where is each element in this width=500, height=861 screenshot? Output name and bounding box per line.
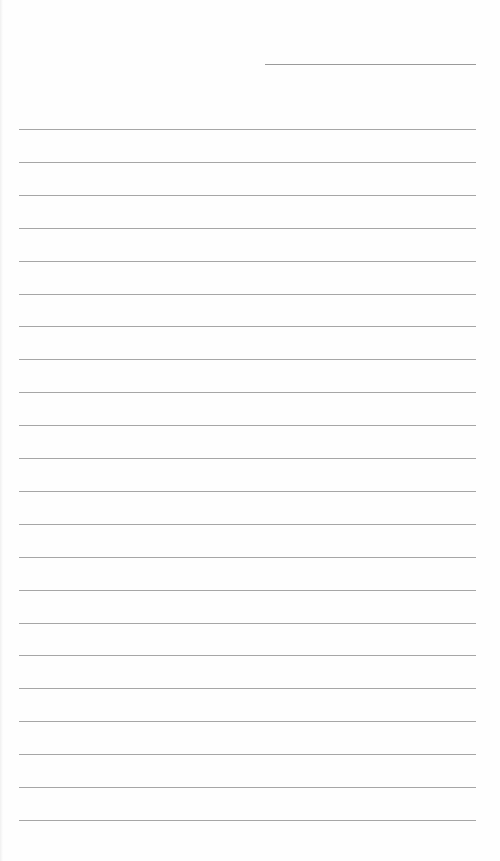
ruled-line bbox=[19, 524, 476, 525]
ruled-line bbox=[19, 820, 476, 821]
ruled-line bbox=[19, 721, 476, 722]
ruled-line bbox=[19, 458, 476, 459]
ruled-line bbox=[19, 392, 476, 393]
ruled-line bbox=[19, 195, 476, 196]
ruled-line bbox=[19, 359, 476, 360]
ruled-line bbox=[19, 162, 476, 163]
ruled-line bbox=[19, 623, 476, 624]
ruled-line bbox=[19, 425, 476, 426]
ruled-line bbox=[19, 754, 476, 755]
ruled-line bbox=[19, 294, 476, 295]
page-edge-shadow bbox=[0, 0, 3, 861]
ruled-line bbox=[19, 655, 476, 656]
ruled-line bbox=[19, 491, 476, 492]
ruled-line bbox=[19, 326, 476, 327]
ruled-line bbox=[19, 129, 476, 130]
ruled-line bbox=[19, 261, 476, 262]
name-line bbox=[265, 64, 476, 65]
ruled-line bbox=[19, 688, 476, 689]
lined-paper-page bbox=[0, 0, 500, 861]
ruled-line bbox=[19, 228, 476, 229]
ruled-line bbox=[19, 787, 476, 788]
ruled-line bbox=[19, 557, 476, 558]
ruled-line bbox=[19, 590, 476, 591]
